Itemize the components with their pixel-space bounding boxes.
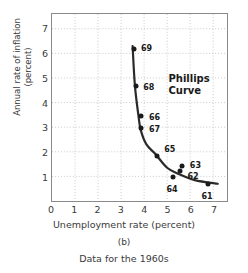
data-point-label: 61 bbox=[201, 192, 212, 201]
data-point bbox=[171, 174, 176, 179]
x-axis-tick: 6 bbox=[184, 204, 198, 215]
figure-subcaption: Data for the 1960s bbox=[0, 253, 248, 264]
x-axis-tick: 3 bbox=[114, 204, 128, 215]
x-axis-label: Unemployment rate (percent) bbox=[0, 219, 248, 230]
data-point bbox=[131, 46, 136, 51]
y-axis-tick: 4 bbox=[34, 97, 48, 108]
phillips-curve-annotation: Phillips Curve bbox=[168, 73, 209, 97]
data-point bbox=[178, 168, 183, 173]
y-axis-tick: 5 bbox=[34, 72, 48, 83]
data-point bbox=[133, 84, 138, 89]
x-axis-tick: 4 bbox=[137, 204, 151, 215]
y-axis-tick-labels: 1234567 bbox=[32, 0, 48, 273]
data-point bbox=[206, 182, 211, 187]
x-axis-tick: 0 bbox=[44, 204, 58, 215]
y-axis-tick: 6 bbox=[34, 47, 48, 58]
data-point-label: 66 bbox=[149, 112, 160, 121]
y-axis-tick: 1 bbox=[34, 172, 48, 183]
panel-letter: (b) bbox=[0, 237, 248, 247]
data-point bbox=[154, 153, 159, 158]
phillips-curve-figure: Annual rate of inflation (percent) 12345… bbox=[0, 0, 248, 273]
data-point-label: 68 bbox=[143, 83, 154, 92]
x-axis-tick: 5 bbox=[160, 204, 174, 215]
data-point bbox=[138, 113, 143, 118]
y-axis-tick: 2 bbox=[34, 147, 48, 158]
data-point-label: 67 bbox=[149, 125, 160, 134]
data-points-layer: 696866676563626461 bbox=[52, 14, 227, 201]
data-point-label: 65 bbox=[164, 144, 175, 153]
x-axis-tick: 7 bbox=[207, 204, 221, 215]
x-axis-tick: 1 bbox=[67, 204, 81, 215]
annotation-line2: Curve bbox=[168, 85, 209, 97]
data-point-label: 63 bbox=[190, 160, 201, 169]
data-point-label: 62 bbox=[188, 171, 199, 180]
x-axis-tick: 2 bbox=[91, 204, 105, 215]
data-point-label: 64 bbox=[167, 184, 178, 193]
plot-area: 696866676563626461 Phillips Curve bbox=[51, 13, 228, 202]
y-axis-label-line1: Annual rate of inflation bbox=[12, 0, 23, 152]
x-axis-tick-labels: 01234567 bbox=[51, 204, 228, 218]
y-axis-tick: 3 bbox=[34, 122, 48, 133]
data-point-label: 69 bbox=[141, 43, 152, 52]
y-axis-tick: 7 bbox=[34, 22, 48, 33]
data-point bbox=[138, 126, 143, 131]
annotation-line1: Phillips bbox=[168, 73, 209, 85]
